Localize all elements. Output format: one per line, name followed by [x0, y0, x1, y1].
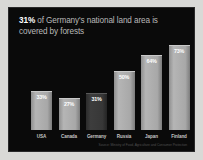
source-note: Source: Ministry of Food, Agriculture an… [99, 143, 187, 147]
axis-label-canada: Canada [55, 134, 84, 139]
bar-value-label: 64% [141, 58, 162, 64]
bar-value-label: 73% [169, 48, 190, 54]
headline-text: of Germany's national land area is cover… [19, 16, 158, 36]
axis-label-usa: USA [27, 134, 56, 139]
bar-rect: 27% [59, 98, 80, 130]
axis-label-russia: Russia [110, 134, 139, 139]
category-axis: USACanadaGermanyRussiaJapanFinland [9, 134, 194, 143]
page-title: 31% of Germany's national land area is c… [19, 15, 177, 38]
bar-rect: 64% [141, 55, 162, 130]
axis-label-germany: Germany [82, 134, 111, 139]
bar-rect: 73% [169, 45, 190, 130]
bar-value-label: 27% [59, 101, 80, 107]
bar-value-label: 50% [114, 74, 135, 80]
bar-rect: 31% [86, 93, 107, 130]
headline-percent: 31% [19, 16, 35, 25]
bar-rect: 33% [31, 91, 52, 130]
axis-label-japan: Japan [137, 134, 166, 139]
bar-rect: 50% [114, 71, 135, 130]
axis-label-finland: Finland [165, 134, 194, 139]
slide-frame: 31% of Germany's national land area is c… [9, 8, 194, 151]
bar-value-label: 33% [31, 94, 52, 100]
bar-value-label: 31% [86, 96, 107, 102]
bar-chart: 33%27%31%50%64%73% [9, 38, 194, 130]
